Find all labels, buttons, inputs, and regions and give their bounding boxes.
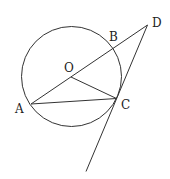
label-b: B xyxy=(109,30,118,44)
label-c: C xyxy=(121,98,130,112)
segment-oc xyxy=(71,77,117,99)
label-d: D xyxy=(152,16,162,30)
geometry-diagram: O A B C D xyxy=(0,0,170,179)
label-a: A xyxy=(14,102,24,116)
tangent-line-dc xyxy=(86,25,148,172)
segment-ad xyxy=(31,25,148,104)
label-o: O xyxy=(64,61,74,75)
segment-ac xyxy=(31,99,117,105)
